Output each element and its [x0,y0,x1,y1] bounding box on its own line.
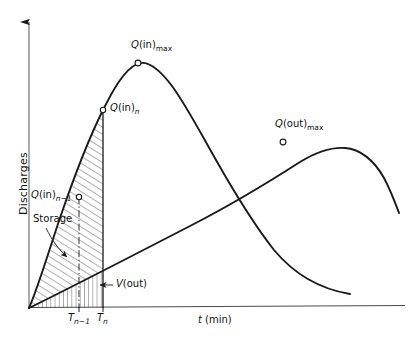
label-storage: Storage [33,214,72,224]
tick-subscript: n−1 [74,318,90,326]
q-qualifier: (in) [39,189,56,200]
hydrograph-plot [0,0,411,341]
hydrograph-figure: Discharges t (min) Tn−1 Tn Q(in)max Q(in… [0,0,411,341]
label-q-in-n: Q(in)n [110,103,140,116]
marker-q-in-max [135,60,141,66]
q-subscript: max [156,45,172,53]
x-axis-title-unit: (min) [202,314,232,325]
q-symbol: Q [110,102,118,113]
q-subscript: n−1 [56,195,72,203]
q-subscript: n [135,108,140,116]
q-symbol: Q [31,189,39,200]
marker-q-in-n [100,107,105,112]
q-qualifier: (in) [139,39,156,50]
marker-q-out-max [280,139,286,145]
q-symbol: Q [275,118,283,129]
x-axis-title: t (min) [198,315,232,325]
label-q-in-max: Q(in)max [131,40,172,53]
tick-subscript: n [103,318,108,326]
label-q-out-max: Q(out)max [275,119,323,132]
q-qualifier: (out) [283,118,307,129]
x-tick-label-tn: Tn [97,313,108,326]
q-subscript: max [307,124,323,132]
v-symbol: V [116,278,123,289]
q-symbol: Q [131,39,139,50]
y-axis-title: Discharges [18,152,29,215]
v-qualifier: (out) [123,278,147,289]
label-v-out: V(out) [116,279,147,289]
marker-q-in-n-minus-1 [76,194,81,199]
q-qualifier: (in) [118,102,135,113]
x-tick-label-tn-minus-1: Tn−1 [68,313,90,326]
label-q-in-n-minus-1: Q(in)n−1 [31,190,72,203]
